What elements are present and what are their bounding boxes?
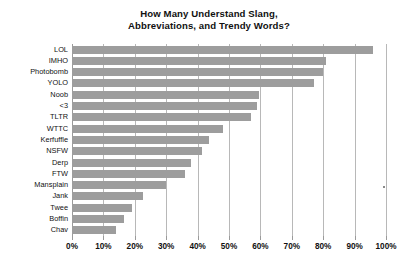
bar: [72, 68, 323, 76]
bar-row: Kerfuffle: [72, 134, 386, 145]
category-label: YOLO: [47, 78, 68, 88]
bar-row: Derp: [72, 157, 386, 168]
chart-title-line-1: How Many Understand Slang,: [0, 8, 418, 20]
category-label: Chav: [51, 225, 68, 235]
bar-chart-figure: How Many Understand Slang, Abbreviations…: [0, 0, 418, 272]
category-label: Derp: [52, 158, 68, 168]
category-label: Photobomb: [30, 67, 68, 77]
bar: [72, 192, 143, 200]
bar: [72, 181, 166, 189]
bar: [72, 125, 223, 133]
tickmark-20pct: [135, 236, 136, 240]
x-tick-label: 90%: [346, 242, 362, 252]
bar: [72, 159, 191, 167]
bar-row: Jank: [72, 191, 386, 202]
category-label: FTW: [52, 169, 68, 179]
bar: [72, 170, 185, 178]
bar-row: Mansplain: [72, 180, 386, 191]
bar-row: TLTR: [72, 112, 386, 123]
bar-row: WTTC: [72, 123, 386, 134]
tickmark-60pct: [260, 236, 261, 240]
category-label: NSFW: [46, 146, 68, 156]
bar: [72, 136, 209, 144]
chart-title: How Many Understand Slang, Abbreviations…: [0, 8, 418, 33]
x-tick-label: 0%: [66, 242, 78, 252]
bar-row: IMHO: [72, 55, 386, 66]
x-tick-label: 10%: [95, 242, 111, 252]
tickmark-10pct: [103, 236, 104, 240]
tickmark-30pct: [166, 236, 167, 240]
bar-row: FTW: [72, 168, 386, 179]
stray-mark: [383, 186, 385, 188]
bar-row: NSFW: [72, 146, 386, 157]
bar: [72, 91, 259, 99]
gridline-100pct: [386, 44, 387, 236]
category-label: Jank: [52, 191, 68, 201]
bar: [72, 79, 314, 87]
x-tick-label: 70%: [284, 242, 300, 252]
bar: [72, 215, 124, 223]
tickmark-70pct: [292, 236, 293, 240]
category-label: IMHO: [49, 56, 68, 66]
bar-row: <3: [72, 100, 386, 111]
x-tick-label: 60%: [252, 242, 268, 252]
bar-row: Twee: [72, 202, 386, 213]
x-tick-label: 100%: [376, 242, 397, 252]
tickmark-80pct: [323, 236, 324, 240]
category-label: Boffin: [49, 214, 68, 224]
bar-row: Noob: [72, 89, 386, 100]
bar: [72, 102, 257, 110]
bar: [72, 226, 116, 234]
tickmark-100pct: [386, 236, 387, 240]
category-label: Kerfuffle: [41, 135, 68, 145]
x-tick-label: 50%: [221, 242, 237, 252]
bar: [72, 57, 326, 65]
plot-area: LOLIMHOPhotobombYOLONoob<3TLTRWTTCKerfuf…: [72, 44, 386, 236]
bar-row: Chav: [72, 225, 386, 236]
bar: [72, 113, 251, 121]
category-label: <3: [60, 101, 68, 111]
bar: [72, 147, 202, 155]
category-label: Mansplain: [34, 180, 68, 190]
category-label: Noob: [50, 90, 68, 100]
x-tick-label: 80%: [315, 242, 331, 252]
tickmark-50pct: [229, 236, 230, 240]
bar-row: Photobomb: [72, 67, 386, 78]
category-label: WTTC: [47, 124, 68, 134]
bar: [72, 46, 373, 54]
bar-row: YOLO: [72, 78, 386, 89]
bar-row: Boffin: [72, 213, 386, 224]
bar-row: LOL: [72, 44, 386, 55]
tickmark-90pct: [355, 236, 356, 240]
tickmark-40pct: [198, 236, 199, 240]
x-tick-label: 40%: [189, 242, 205, 252]
x-tick-label: 30%: [158, 242, 174, 252]
category-label: LOL: [54, 45, 68, 55]
category-label: TLTR: [50, 112, 68, 122]
category-label: Twee: [50, 203, 68, 213]
x-tick-label: 20%: [127, 242, 143, 252]
bar: [72, 204, 132, 212]
tickmark-0pct: [72, 236, 73, 240]
chart-title-line-2: Abbreviations, and Trendy Words?: [0, 20, 418, 32]
